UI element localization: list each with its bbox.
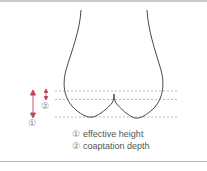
- marker-effective-height: ①: [28, 118, 36, 128]
- legend-item-effective-height: ①effective height: [72, 128, 150, 140]
- bottom-border: [0, 161, 207, 162]
- legend-text: coaptation depth: [83, 141, 150, 151]
- legend-marker: ①: [72, 129, 80, 139]
- effective-height-arrow: [31, 90, 36, 118]
- legend-marker: ②: [72, 141, 80, 151]
- coaptation-depth-arrow: [44, 89, 47, 100]
- leaflet-outline-right: [114, 10, 163, 118]
- marker-coaptation-depth: ②: [41, 101, 49, 111]
- legend: ①effective height ②coaptation depth: [72, 128, 150, 152]
- legend-item-coaptation-depth: ②coaptation depth: [72, 140, 150, 152]
- leaflet-outline-left: [64, 10, 114, 117]
- legend-text: effective height: [83, 129, 143, 139]
